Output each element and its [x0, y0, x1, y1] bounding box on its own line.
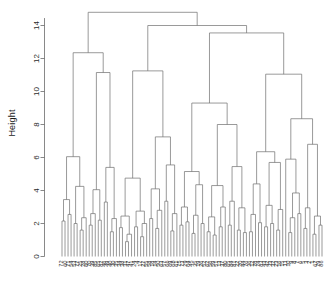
svg-text:0: 0	[32, 254, 41, 259]
leaf-labels: 7260715453772528607039856582464940303534…	[58, 261, 324, 267]
svg-text:14: 14	[32, 21, 41, 30]
leaf-label: 86	[318, 261, 324, 267]
svg-text:10: 10	[32, 87, 41, 96]
svg-text:12: 12	[32, 54, 41, 63]
dendrogram-plot: 02468101214 7260715453772528607039856582…	[0, 0, 330, 287]
y-axis-tick-labels: 02468101214	[32, 21, 41, 259]
y-axis-title: Height	[7, 93, 17, 153]
svg-text:8: 8	[32, 122, 41, 127]
svg-text:4: 4	[32, 188, 41, 193]
dendrogram-figure: 02468101214 7260715453772528607039856582…	[0, 0, 330, 287]
svg-text:6: 6	[32, 155, 41, 160]
dendrogram-links	[62, 12, 322, 256]
y-axis	[41, 18, 45, 256]
svg-text:2: 2	[32, 221, 41, 226]
